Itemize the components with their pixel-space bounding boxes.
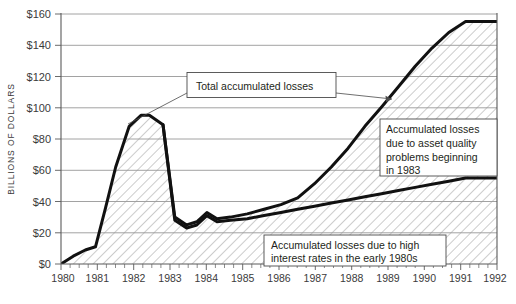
ytick-label-160: $160: [27, 8, 51, 20]
xtick-label-1992: 1992: [483, 272, 507, 284]
xtick-label-1990: 1990: [413, 272, 437, 284]
xtick-label-1988: 1988: [340, 272, 364, 284]
annotation-interest-rate-line1: Accumulated losses due to high: [271, 239, 419, 251]
ytick-label-80: $80: [33, 133, 51, 145]
ytick-label-120: $120: [27, 71, 51, 83]
annotation-interest-rate-line2: interest rates in the early 1980s: [271, 252, 418, 264]
annotation-total-losses-line1: Total accumulated losses: [196, 80, 313, 92]
annotation-asset-quality-line1: Accumulated losses: [386, 123, 479, 135]
xtick-label-1984: 1984: [195, 272, 219, 284]
xtick-label-1986: 1986: [267, 272, 291, 284]
ytick-label-140: $140: [27, 39, 51, 51]
annotation-interest-rate-losses: Accumulated losses due to high interest …: [264, 235, 446, 266]
ytick-label-0: $0: [39, 258, 51, 270]
ytick-label-20: $20: [33, 227, 51, 239]
ytick-label-40: $40: [33, 196, 51, 208]
accumulated-losses-chart: $160 $140 $120 $100 $80 $60 $40 $20 $0 1…: [0, 0, 516, 304]
annotation-asset-quality-line4: in 1983: [386, 164, 421, 176]
annotation-total-losses: Total accumulated losses: [187, 73, 336, 98]
xtick-label-1985: 1985: [231, 272, 255, 284]
xtick-label-1982: 1982: [122, 272, 146, 284]
xtick-label-1980: 1980: [51, 272, 75, 284]
ytick-label-100: $100: [27, 102, 51, 114]
annotation-asset-quality-losses: Accumulated losses due to asset quality …: [380, 119, 497, 176]
xtick-label-1981: 1981: [86, 272, 110, 284]
xtick-label-1987: 1987: [304, 272, 328, 284]
xtick-label-1991: 1991: [449, 272, 473, 284]
y-axis-title: BILLIONS OF DOLLARS: [6, 83, 16, 195]
annotation-asset-quality-line3: problems beginning: [386, 151, 478, 163]
xtick-label-1989: 1989: [376, 272, 400, 284]
annotation-asset-quality-line2: due to asset quality: [386, 137, 477, 149]
chart-container: $160 $140 $120 $100 $80 $60 $40 $20 $0 1…: [0, 0, 516, 304]
ytick-label-60: $60: [33, 164, 51, 176]
xtick-label-1983: 1983: [158, 272, 182, 284]
